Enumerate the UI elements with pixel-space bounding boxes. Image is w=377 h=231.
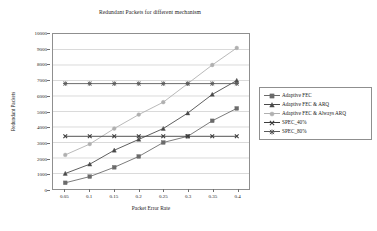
x-tick-mark [238,189,239,192]
series-3 [63,134,238,138]
chart-title: Redundant Packets for different mechanis… [0,9,300,15]
legend-label: Adaptive FEC [280,91,312,100]
legend-label: SPEC_40% [280,118,307,127]
x-tick-label: 0.25 [159,193,168,200]
legend-triangle-icon [264,100,280,109]
x-tick-mark [114,189,115,192]
legend-item[interactable]: Adaptive FEC & Always ARQ [262,109,369,118]
x-tick-mark [89,189,90,192]
y-tick-label: 2000 [37,156,47,161]
x-axis-tick-labels: 0.050.10.150.20.250.30.350.4 [52,193,250,203]
series-layer [53,34,249,189]
y-tick-mark [47,190,50,191]
legend-cross-icon [264,118,280,127]
x-tick-label: 0.3 [185,193,191,200]
y-axis-title: Redundant Packets [8,33,18,190]
y-tick-label: 7000 [37,78,47,83]
legend-label: Adaptive FEC & ARQ [280,100,329,109]
x-tick-mark [64,189,65,192]
y-tick-label: 9000 [37,46,47,51]
chart-container: Redundant Packets for different mechanis… [0,0,377,231]
x-tick-mark [163,189,164,192]
x-tick-label: 0.15 [110,193,119,200]
x-tick-label: 0.05 [60,193,69,200]
legend-square-icon [264,91,280,100]
y-tick-mark [47,33,50,34]
y-tick-label: 1000 [37,172,47,177]
series-2 [63,46,238,157]
legend-asterisk-icon [264,127,280,136]
y-tick-label: 4000 [37,125,47,130]
x-tick-mark [188,189,189,192]
y-tick-mark [47,49,50,50]
x-tick-label: 0.1 [86,193,92,200]
x-tick-label: 0.4 [235,193,241,200]
y-tick-mark [47,64,50,65]
y-tick-mark [47,80,50,81]
y-axis-tick-labels: 0100020003000400050006000700080009000100… [18,33,50,190]
y-tick-mark [47,159,50,160]
x-axis-title: Packet Error Rate [52,205,250,211]
legend-label: Adaptive FEC & Always ARQ [280,109,346,118]
y-tick-mark [47,174,50,175]
x-tick-label: 0.2 [136,193,142,200]
series-4 [63,81,239,86]
legend-item[interactable]: SPEC_80% [262,127,369,136]
x-tick-label: 0.35 [209,193,218,200]
y-tick-label: 8000 [37,62,47,67]
series-1 [63,78,239,175]
y-tick-mark [47,127,50,128]
legend-item[interactable]: SPEC_40% [262,118,369,127]
y-tick-mark [47,96,50,97]
legend-label: SPEC_80% [280,127,307,136]
x-tick-mark [213,189,214,192]
legend-item[interactable]: Adaptive FEC & ARQ [262,100,369,109]
y-tick-label: 3000 [37,140,47,145]
plot-area [52,33,250,190]
y-tick-label: 6000 [37,93,47,98]
y-tick-mark [47,143,50,144]
legend-item[interactable]: Adaptive FEC [262,91,369,100]
x-tick-mark [139,189,140,192]
y-tick-label: 10000 [35,31,48,36]
legend-circle-icon [264,109,280,118]
y-tick-mark [47,112,50,113]
chart-legend: Adaptive FECAdaptive FEC & ARQAdaptive F… [259,87,372,140]
y-tick-label: 5000 [37,109,47,114]
